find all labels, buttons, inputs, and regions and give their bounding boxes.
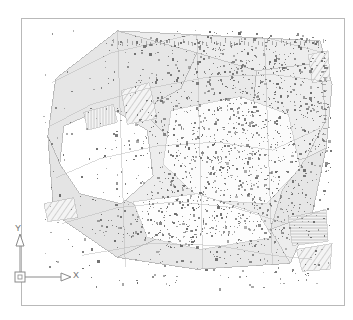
drawing-canvas[interactable] [22, 19, 344, 305]
drawing-viewport[interactable] [21, 18, 345, 306]
cad-application-window: Y X [0, 0, 353, 320]
